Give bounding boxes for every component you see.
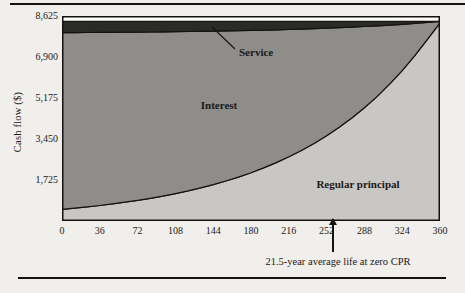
- x-tick-labels: 03672108144180216252288324360: [62, 225, 440, 239]
- y-tick-label: 6,900: [18, 51, 58, 63]
- mortgage-cashflow-figure: Cash flow ($) 1,7253,4505,1756,9008,625 …: [0, 0, 465, 293]
- label-regular-principal: Regular principal: [316, 178, 399, 190]
- x-tick-label: 144: [206, 225, 221, 237]
- plot-area: Regular principalInterestService: [62, 16, 440, 221]
- label-service: Service: [239, 46, 273, 58]
- y-tick-label: 3,450: [18, 133, 58, 145]
- x-tick-label: 180: [244, 225, 259, 237]
- arrow-shaft: [332, 224, 334, 252]
- x-tick-label: 0: [60, 225, 65, 237]
- y-tick-label: 1,725: [18, 174, 58, 186]
- top-rule: [10, 3, 465, 5]
- x-tick-label: 108: [168, 225, 183, 237]
- bottom-rule: [18, 277, 446, 279]
- x-tick-label: 36: [95, 225, 105, 237]
- y-tick-labels: 1,7253,4505,1756,9008,625: [18, 0, 58, 293]
- average-life-caption: 21.5-year average life at zero CPR: [265, 256, 410, 267]
- x-tick-label: 288: [357, 225, 372, 237]
- x-tick-label: 72: [133, 225, 143, 237]
- x-tick-label: 324: [395, 225, 410, 237]
- x-tick-label: 216: [281, 225, 296, 237]
- cashflow-chart: Regular principalInterestService: [62, 16, 440, 221]
- y-tick-label: 5,175: [18, 92, 58, 104]
- label-interest: Interest: [201, 99, 238, 111]
- x-tick-label: 360: [433, 225, 448, 237]
- y-tick-label: 8,625: [18, 10, 58, 22]
